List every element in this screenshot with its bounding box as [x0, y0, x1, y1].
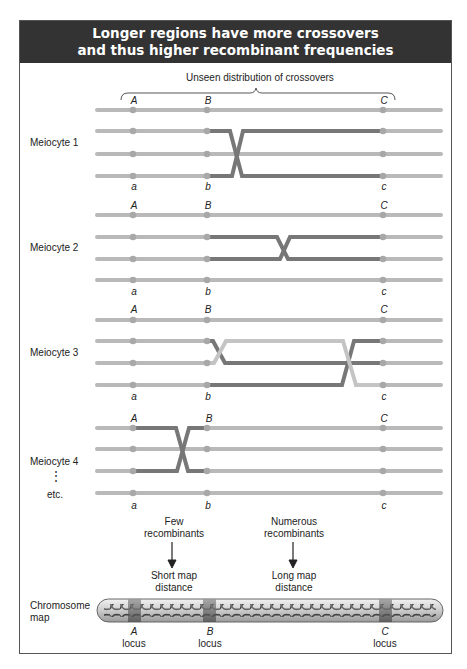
short-map-distance-label: Short map distance — [151, 570, 197, 594]
brace-label: Unseen distribution of crossovers — [186, 72, 334, 83]
allele-A-m3: A — [131, 304, 138, 315]
locus-B-label: B locus — [198, 626, 221, 650]
allele-A-m4: A — [131, 413, 138, 424]
allele-c-m2: c — [382, 286, 387, 297]
allele-C-m4: C — [380, 413, 387, 424]
meiocyte-2-chromatids — [97, 215, 441, 280]
allele-B-m2: B — [205, 200, 212, 211]
chromosome-map-label: Chromosome map — [30, 600, 90, 624]
allele-B-m3: B — [205, 304, 212, 315]
brace — [121, 88, 395, 100]
etc-label: etc. — [47, 489, 63, 500]
meiocyte-3-chromatids — [97, 320, 441, 385]
locus-A-label: A locus — [122, 626, 145, 650]
allele-b-m4: b — [205, 500, 211, 511]
meiocyte-4-chromatids — [97, 428, 441, 493]
meiocyte-3-label: Meiocyte 3 — [30, 347, 78, 358]
allele-b-m2: b — [205, 286, 211, 297]
allele-C-m1: C — [380, 95, 387, 106]
long-map-distance-label: Long map distance — [272, 570, 316, 594]
meiocyte-4-label: Meiocyte 4 — [30, 456, 78, 467]
allele-A-m2: A — [131, 200, 138, 211]
allele-C-m3: C — [380, 304, 387, 315]
arrow-few-to-short — [168, 542, 176, 568]
allele-a-m4: a — [131, 500, 137, 511]
numerous-recombinants-label: Numerous recombinants — [264, 516, 324, 540]
allele-b-m1: b — [205, 181, 211, 192]
locus-dots — [130, 107, 387, 497]
allele-a-m1: a — [131, 181, 137, 192]
meiocyte-2-label: Meiocyte 2 — [30, 242, 78, 253]
allele-c-m4: c — [382, 500, 387, 511]
allele-c-m3: c — [382, 391, 387, 402]
allele-B-m4: B — [206, 413, 213, 424]
allele-B-m1: B — [205, 95, 212, 106]
chromosome-map-bar — [97, 599, 443, 622]
allele-a-m2: a — [131, 286, 137, 297]
meiocyte-1-label: Meiocyte 1 — [30, 137, 78, 148]
allele-c-m1: c — [382, 181, 387, 192]
meiocyte-1-chromatids — [97, 110, 441, 176]
allele-C-m2: C — [380, 200, 387, 211]
allele-a-m3: a — [131, 391, 137, 402]
locus-C-label: C locus — [373, 626, 396, 650]
crossover-diagram — [0, 0, 467, 669]
arrow-numerous-to-long — [289, 542, 297, 568]
allele-b-m3: b — [205, 391, 211, 402]
few-recombinants-label: Few recombinants — [144, 516, 204, 540]
allele-A-m1: A — [131, 95, 138, 106]
ellipsis-icon: ⋮ — [50, 470, 62, 482]
